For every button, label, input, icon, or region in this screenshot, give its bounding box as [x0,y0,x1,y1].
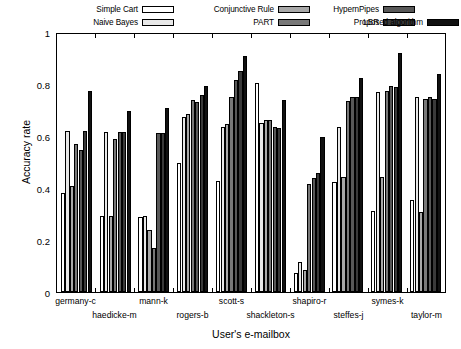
x-axis-tick-label: haedicke-m [92,310,136,320]
x-axis-tick-label: shapiro-r [293,296,327,306]
bar [88,91,92,292]
chart-legend: Simple CartNaive Bayes Conjunctive RuleP… [0,4,461,30]
x-axis-tick-label: scott-s [219,296,244,306]
legend-item: Proposed algorithm [330,17,459,28]
x-axis-tick-mark [212,33,213,38]
bar [165,108,169,292]
legend-item: HypernPipes [290,4,415,15]
bar-group [290,34,329,292]
legend-item: Conjunctive Rule [160,4,310,15]
legend-item: Simple Cart [14,4,174,15]
bar-group [329,34,368,292]
bar-group [251,34,290,292]
x-axis-tick-mark [95,33,96,38]
x-axis-tick-label: rogers-b [177,310,209,320]
x-axis-tick-mark [290,33,291,38]
bar-group [173,34,212,292]
bar [204,86,208,292]
bar [282,100,286,292]
legend-item-label: HypernPipes [333,5,379,14]
x-axis-tick-mark [329,288,330,293]
x-axis-tick-mark [368,288,369,293]
x-axis-labels: germany-chaedicke-mmann-krogers-bscott-s… [56,296,446,332]
x-axis-tick-label: mann-k [139,296,168,306]
legend-swatch [383,6,415,13]
x-axis-tick-label: steffes-j [334,310,364,320]
bar-chart: Simple CartNaive Bayes Conjunctive RuleP… [0,0,461,349]
x-axis-tick-mark [212,288,213,293]
y-axis-tick-label: 0.2 [0,236,50,247]
x-axis-tick-label: symes-k [372,296,404,306]
legend-item-label: Proposed algorithm [354,18,423,27]
x-axis-tick-mark [251,33,252,38]
legend-item: PART [160,17,310,28]
bar-group [135,34,174,292]
legend-item-label: PART [253,18,274,27]
x-axis-tick-label: germany-c [55,296,96,306]
plot-area [56,33,446,293]
legend-column-4: Proposed algorithm [330,17,459,30]
x-axis-tick-label: shackleton-s [246,310,294,320]
y-axis-tick-label: 0 [0,288,50,299]
x-axis-title: User's e-mailbox [56,328,446,340]
bar [398,53,402,292]
bar [127,111,131,292]
legend-item-label: Simple Cart [96,5,138,14]
legend-item-label: Conjunctive Rule [214,5,274,14]
x-axis-tick-mark [95,288,96,293]
bar-group [96,34,135,292]
bar [243,56,247,292]
x-axis-tick-mark [290,288,291,293]
x-axis-tick-mark [329,33,330,38]
bar [359,78,363,292]
bar [320,137,324,292]
bar-group [212,34,251,292]
legend-item: Naive Bayes [14,17,174,28]
legend-item-label: Naive Bayes [93,18,138,27]
x-axis-tick-mark [251,288,252,293]
bar-groups [57,34,445,292]
x-axis-tick-mark [173,288,174,293]
bar-group [367,34,406,292]
bar [437,74,441,292]
x-axis-tick-mark [407,288,408,293]
legend-column-1: Simple CartNaive Bayes [14,4,174,30]
bar-group [406,34,445,292]
x-axis-tick-mark [134,33,135,38]
x-axis-tick-mark [407,33,408,38]
y-axis-tick-label: 1 [0,28,50,39]
x-axis-tick-mark [173,33,174,38]
legend-column-2: Conjunctive RulePART [160,4,310,30]
legend-swatch [427,19,459,26]
x-axis-tick-mark [368,33,369,38]
x-axis-tick-label: taylor-m [411,310,442,320]
bar-group [57,34,96,292]
y-axis-title: Accuracy rate [20,82,32,222]
x-axis-tick-mark [134,288,135,293]
